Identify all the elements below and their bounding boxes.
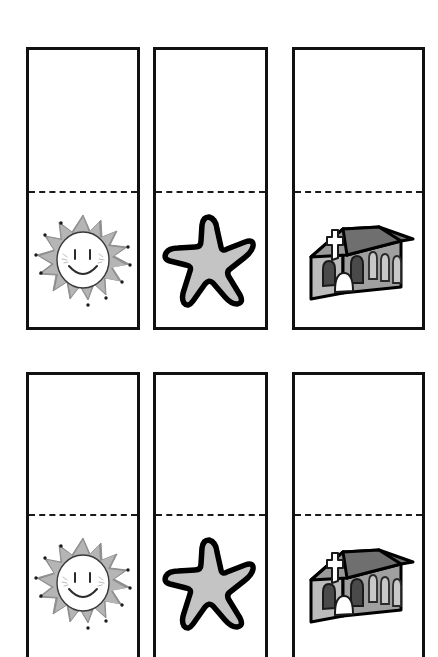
church-art-area xyxy=(295,195,422,330)
church-icon xyxy=(301,211,417,315)
fold-line xyxy=(29,514,137,516)
sun-art-area xyxy=(29,518,137,653)
star-art-area xyxy=(156,518,265,653)
star-icon xyxy=(161,534,261,638)
fold-line xyxy=(295,514,422,516)
fold-line xyxy=(156,514,265,516)
sun-art-area xyxy=(29,195,137,330)
fold-line xyxy=(29,191,137,193)
sun-icon xyxy=(32,204,134,322)
star-card[interactable] xyxy=(153,372,268,657)
star-card[interactable] xyxy=(153,47,268,330)
sun-card[interactable] xyxy=(26,372,140,657)
sun-icon xyxy=(32,527,134,645)
card-row-top xyxy=(0,47,438,330)
church-card[interactable] xyxy=(292,372,425,657)
church-icon xyxy=(301,534,417,638)
fold-line xyxy=(156,191,265,193)
star-art-area xyxy=(156,195,265,330)
fold-line xyxy=(295,191,422,193)
star-icon xyxy=(161,211,261,315)
card-row-bottom xyxy=(0,372,438,643)
church-card[interactable] xyxy=(292,47,425,330)
sun-card[interactable] xyxy=(26,47,140,330)
church-art-area xyxy=(295,518,422,653)
